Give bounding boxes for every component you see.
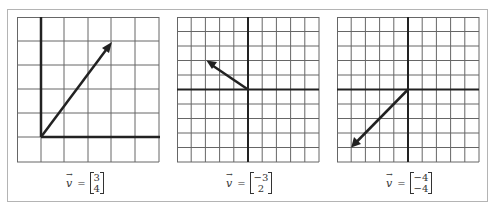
vector-component-x: 3 bbox=[94, 172, 100, 183]
vector-component-x: −3 bbox=[254, 172, 269, 183]
vector-arrow-accent: → bbox=[226, 170, 232, 179]
equals-sign: = bbox=[397, 178, 405, 189]
vector-component-y: 4 bbox=[94, 183, 100, 194]
vector-component-y: −4 bbox=[414, 183, 429, 194]
plot-right bbox=[337, 17, 480, 163]
plot-middle bbox=[177, 17, 320, 163]
vector-grid-right bbox=[337, 17, 480, 163]
vector-label-left: → v = 3 4 bbox=[66, 171, 104, 195]
vector-grid-left bbox=[17, 17, 160, 163]
equals-sign: = bbox=[77, 178, 85, 189]
axes-left bbox=[41, 17, 160, 137]
equals-sign: = bbox=[237, 178, 245, 189]
vector-component-x: −4 bbox=[414, 172, 429, 183]
column-vector: −3 2 bbox=[250, 172, 273, 194]
vector-symbol: → v bbox=[226, 177, 232, 190]
vector-symbol: → v bbox=[386, 177, 392, 190]
vector-label-right: → v = −4 −4 bbox=[386, 171, 432, 195]
vector-arrow-accent: → bbox=[386, 170, 392, 179]
vector-symbol: → v bbox=[66, 177, 72, 190]
vector-arrow-accent: → bbox=[66, 170, 72, 179]
column-vector: −4 −4 bbox=[410, 172, 433, 194]
vector-label-middle: → v = −3 2 bbox=[226, 171, 272, 195]
plot-left bbox=[17, 17, 160, 163]
vector-grid-middle bbox=[177, 17, 320, 163]
column-vector: 3 4 bbox=[90, 172, 104, 194]
vector-component-y: 2 bbox=[258, 183, 264, 194]
